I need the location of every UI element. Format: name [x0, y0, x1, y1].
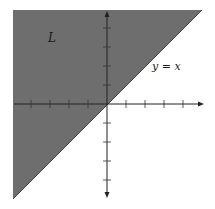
y-axis-arrow-down-icon — [105, 192, 110, 198]
region-label: L — [47, 31, 56, 45]
half-plane-diagram: L y = x — [0, 0, 215, 209]
line-label: y = x — [151, 60, 181, 73]
x-axis-arrow-icon — [198, 102, 204, 107]
